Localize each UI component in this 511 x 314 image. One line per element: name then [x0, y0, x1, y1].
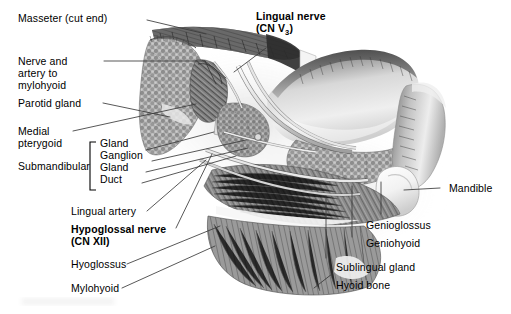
label-geniohyoid: Geniohyoid [366, 237, 420, 249]
label-lingual-artery: Lingual artery [71, 205, 136, 217]
label-lingual-nerve: Lingual nerve(CN V3) [256, 10, 326, 40]
label-hyoglossus: Hyoglossus [71, 258, 126, 270]
label-hypoglossal-nerve-line2: (CN XII) [71, 235, 110, 247]
submandibular-ganglion-node [255, 134, 262, 141]
leader-mylohyoid [122, 246, 215, 288]
label-medial-pterygoid: Medialpterygoid [18, 125, 62, 149]
label-hypoglossal-nerve-line1: Hypoglossal nerve [71, 223, 166, 235]
label-hyoid-bone: Hyoid bone [336, 279, 390, 291]
label-nerve-artery-mylohyoid-line3: mylohyoid [18, 79, 66, 91]
label-submandibular-duct: Duct [100, 173, 122, 185]
label-parotid-gland: Parotid gland [18, 97, 81, 109]
label-lingual-nerve-cn-post: ) [289, 22, 293, 34]
label-submandibular: Submandibular [18, 160, 90, 172]
label-sublingual-gland: Sublingual gland [336, 261, 415, 273]
label-submandibular-gland-1: Gland [100, 137, 129, 149]
label-hypoglossal-nerve: Hypoglossal nerve(CN XII) [71, 223, 166, 247]
label-lingual-nerve-cn-pre: (CN V [256, 22, 285, 34]
label-nerve-artery-mylohyoid-line1: Nerve and [18, 55, 67, 67]
submandibular-bracket [90, 142, 96, 190]
label-masseter: Masseter (cut end) [18, 12, 107, 24]
label-medial-pterygoid-line2: pterygoid [18, 137, 62, 149]
label-genioglossus: Genioglossus [366, 219, 431, 231]
label-nerve-artery-mylohyoid-line2: artery to [18, 67, 57, 79]
label-mylohyoid: Mylohyoid [71, 282, 119, 294]
scan-artifact [22, 298, 114, 305]
label-submandibular-ganglion: Ganglion [100, 149, 143, 161]
label-medial-pterygoid-line1: Medial [18, 125, 50, 137]
label-submandibular-gland-2: Gland [100, 161, 129, 173]
label-mandible: Mandible [449, 182, 492, 194]
label-lingual-nerve-line1: Lingual nerve [256, 10, 326, 22]
label-nerve-artery-mylohyoid: Nerve andartery tomylohyoid [18, 55, 67, 92]
